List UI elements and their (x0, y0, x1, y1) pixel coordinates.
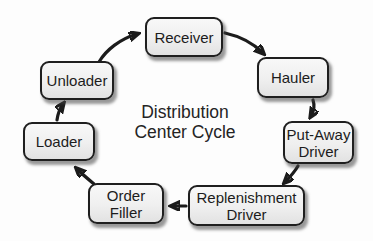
node-label: Loader (36, 133, 83, 150)
node-replenishment-driver: Replenishment Driver (188, 185, 305, 226)
diagram-title: Distribution Center Cycle (126, 102, 244, 142)
diagram-title-line: Distribution (126, 102, 244, 122)
node-loader: Loader (23, 122, 95, 161)
node-label: Driver (299, 143, 339, 160)
node-label: Receiver (154, 29, 213, 46)
arrow-loader-to-unloader (57, 104, 63, 120)
diagram-title-line: Center Cycle (126, 122, 244, 142)
arrow-order-filler-to-loader (77, 169, 94, 184)
node-label: Unloader (47, 72, 108, 89)
arrow-receiver-to-hauler (225, 33, 263, 53)
arrow-unloader-to-receiver (99, 34, 137, 62)
arrow-put-away-to-replenishment (285, 166, 298, 182)
arrow-hauler-to-put-away (311, 100, 314, 116)
node-unloader: Unloader (40, 61, 114, 100)
node-hauler: Hauler (257, 57, 329, 98)
node-label: Replenishment (196, 189, 296, 206)
node-label: Hauler (271, 69, 315, 86)
node-label: Driver (227, 206, 267, 223)
node-label: Filler (110, 204, 143, 221)
node-label: Put-Away (287, 126, 351, 143)
distribution-center-cycle-diagram: Receiver Hauler Put-Away Driver Replenis… (0, 0, 373, 241)
node-put-away-driver: Put-Away Driver (283, 121, 354, 164)
node-label: Order (107, 187, 145, 204)
node-order-filler: Order Filler (88, 183, 164, 224)
node-receiver: Receiver (145, 17, 223, 57)
